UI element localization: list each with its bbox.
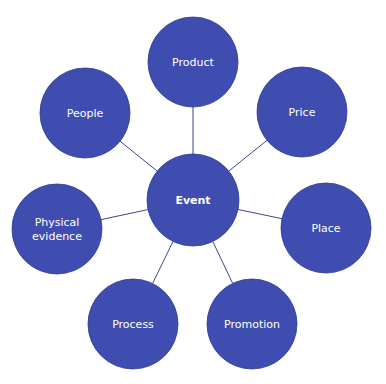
- node-product: Product: [148, 17, 238, 107]
- connector-event-price: [229, 140, 267, 171]
- diagram: ProductPricePlacePromotionProcessPhysica…: [0, 0, 386, 384]
- node-people: People: [40, 68, 130, 158]
- node-label: People: [67, 107, 104, 120]
- node-label: Price: [289, 106, 316, 119]
- node-label: Physical: [35, 216, 80, 229]
- node-label: Event: [175, 194, 210, 207]
- node-place: Place: [281, 183, 371, 273]
- node-physical-evidence: Physicalevidence: [12, 184, 102, 274]
- node-label: Promotion: [224, 318, 280, 331]
- node-promotion: Promotion: [207, 279, 297, 369]
- connector-event-people: [120, 141, 157, 171]
- node-label: Process: [112, 318, 154, 331]
- node-label: Product: [172, 56, 214, 69]
- connector-event-place: [238, 210, 282, 219]
- node-price: Price: [257, 67, 347, 157]
- connector-event-promotion: [213, 242, 233, 284]
- node-label: Place: [311, 222, 340, 235]
- connector-event-process: [153, 241, 173, 283]
- nodes: ProductPricePlacePromotionProcessPhysica…: [12, 17, 371, 369]
- connector-event-physical-evidence: [101, 210, 148, 220]
- node-circle: [12, 184, 102, 274]
- node-process: Process: [88, 279, 178, 369]
- node-event: Event: [147, 154, 239, 246]
- node-label: evidence: [32, 230, 82, 243]
